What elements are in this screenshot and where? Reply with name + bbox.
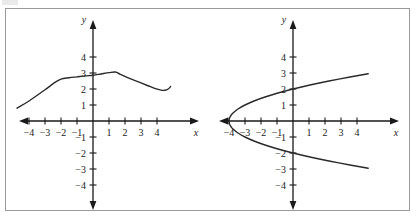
y-tick-label: 3 xyxy=(281,68,286,79)
x-tick-label: −2 xyxy=(56,127,67,138)
y-tick-label: −2 xyxy=(75,148,86,159)
y-axis-arrow-down xyxy=(290,201,297,210)
x-axis-arrow-right xyxy=(390,118,399,125)
y-tick-label: −1 xyxy=(275,132,286,143)
x-tick-label: 1 xyxy=(307,127,312,138)
x-tick-label: 3 xyxy=(139,127,144,138)
curve-left xyxy=(17,72,171,108)
y-axis-label: y xyxy=(281,14,287,25)
x-axis-label: x xyxy=(393,127,399,138)
x-tick-label: −3 xyxy=(40,127,51,138)
scan-artifact xyxy=(2,0,18,5)
chart-panel-right: −4−3−2−11234−4−3−2−11234xy xyxy=(206,9,409,212)
y-tick-label: 4 xyxy=(281,52,286,63)
figure-container: −4−3−2−11234−4−3−2−11234xy −4−3−2−11234−… xyxy=(0,0,416,218)
x-axis-label: x xyxy=(193,127,199,138)
x-axis-arrow-left xyxy=(19,118,28,125)
x-tick-label: 2 xyxy=(123,127,128,138)
y-tick-label: 4 xyxy=(81,52,86,63)
parabola-upper-branch xyxy=(229,74,368,121)
x-tick-label: −2 xyxy=(256,127,267,138)
y-tick-label: −3 xyxy=(275,164,286,175)
y-tick-label: 1 xyxy=(281,100,286,111)
y-axis-arrow-up xyxy=(90,20,97,29)
y-tick-label: −1 xyxy=(75,132,86,143)
y-axis-arrow-down xyxy=(90,201,97,210)
x-tick-label: 4 xyxy=(155,127,160,138)
y-tick-label: −4 xyxy=(75,180,86,191)
chart-panel-left: −4−3−2−11234−4−3−2−11234xy xyxy=(6,9,209,212)
y-tick-label: 2 xyxy=(281,84,286,95)
y-tick-label: −3 xyxy=(75,164,86,175)
x-tick-label: −4 xyxy=(24,127,35,138)
x-tick-label: 4 xyxy=(355,127,360,138)
x-axis-arrow-right xyxy=(190,118,199,125)
y-axis-label: y xyxy=(81,14,87,25)
y-axis-arrow-up xyxy=(290,20,297,29)
x-tick-label: 1 xyxy=(107,127,112,138)
x-tick-label: 2 xyxy=(323,127,328,138)
x-axis-arrow-left xyxy=(219,118,228,125)
figure-frame: −4−3−2−11234−4−3−2−11234xy −4−3−2−11234−… xyxy=(5,8,410,211)
y-tick-label: 2 xyxy=(81,84,86,95)
y-tick-label: 1 xyxy=(81,100,86,111)
right-coordinate-plane: −4−3−2−11234−4−3−2−11234xy xyxy=(206,9,409,212)
y-tick-label: −4 xyxy=(275,180,286,191)
x-tick-label: 3 xyxy=(339,127,344,138)
left-coordinate-plane: −4−3−2−11234−4−3−2−11234xy xyxy=(6,9,209,212)
